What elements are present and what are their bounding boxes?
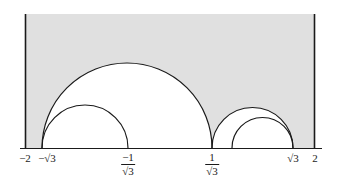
tick-label-neg-sqrt3: −√3 [38, 153, 56, 164]
shaded-region [25, 14, 315, 148]
tick-label-neg-two: −2 [19, 153, 31, 164]
figure-container: −2 −√3 −1 √3 1 √3 √3 2 [0, 0, 340, 184]
tick-label-one-over-sqrt3: 1 √3 [205, 152, 219, 177]
tick-label-sqrt3: √3 [287, 153, 299, 164]
tick-label-neg-one-over-sqrt3: −1 √3 [121, 152, 135, 177]
fraction-denominator: √3 [121, 166, 135, 178]
fraction-denominator: √3 [205, 166, 219, 178]
fraction-numerator: −1 [121, 152, 135, 164]
tick-label-two: 2 [312, 153, 318, 164]
fraction-numerator: 1 [205, 152, 219, 164]
